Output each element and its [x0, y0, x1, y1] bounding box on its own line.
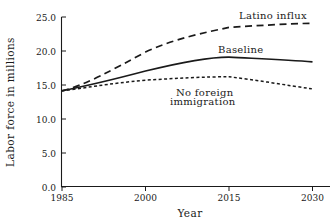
y-tick-label-15: 15.0	[36, 81, 56, 91]
y-axis-title: Labor force in millions	[4, 37, 16, 167]
labor-force-line-chart: 25.0 20.0 15.0 10.0 5.0 0.0 1985 2000 20…	[0, 0, 336, 222]
series-label-latino-influx: Latino influx	[239, 10, 307, 21]
series-label-no-foreign-line2: immigration	[170, 96, 236, 107]
x-axis-ticks	[62, 187, 313, 192]
y-tick-label-20: 20.0	[36, 47, 56, 57]
x-tick-label-2015: 2015	[218, 193, 241, 203]
x-tick-label-1985: 1985	[51, 193, 74, 203]
y-tick-label-25: 25.0	[36, 13, 56, 23]
y-tick-label-5: 5.0	[42, 149, 57, 159]
series-line-latino-influx	[62, 23, 313, 91]
y-axis-ticks	[62, 17, 67, 187]
x-tick-label-2030: 2030	[301, 193, 324, 203]
y-tick-label-10: 10.0	[36, 115, 56, 125]
chart-figure: 25.0 20.0 15.0 10.0 5.0 0.0 1985 2000 20…	[0, 0, 336, 222]
x-tick-label-2000: 2000	[134, 193, 157, 203]
series-label-baseline: Baseline	[218, 44, 264, 55]
x-axis-title: Year	[176, 207, 203, 219]
y-tick-label-0: 0.0	[42, 183, 57, 193]
